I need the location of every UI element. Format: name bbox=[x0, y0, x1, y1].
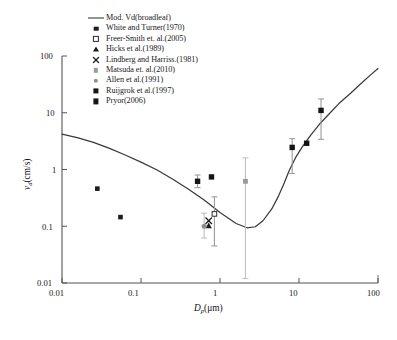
error-bar bbox=[242, 158, 248, 279]
legend-label-1: White and Turner(1970) bbox=[106, 23, 185, 33]
legend-label-7: Ruijgrok et al.(1997) bbox=[106, 86, 174, 96]
data-point bbox=[304, 141, 309, 146]
error-bar bbox=[318, 99, 324, 139]
y-tick-1: 1 bbox=[52, 165, 56, 175]
y-axis-title-sub: d bbox=[26, 183, 33, 186]
data-point bbox=[243, 179, 248, 184]
legend-marker-square-gray-icon bbox=[86, 65, 106, 75]
x-tick-2: 1 bbox=[213, 288, 217, 298]
y-axis-title-unit: (cm/s) bbox=[22, 159, 32, 183]
data-point bbox=[195, 179, 200, 184]
legend-label-5: Matsuda et. al.(2010) bbox=[106, 65, 175, 75]
legend-marker-x-cross-icon bbox=[86, 55, 106, 65]
x-axis-title: Dp(μm) bbox=[194, 303, 223, 314]
legend-item-8: Pryor(2006) bbox=[86, 96, 296, 106]
chart-legend: Mod. Vd(broadleaf)White and Turner(1970)… bbox=[86, 13, 296, 107]
data-point bbox=[289, 145, 294, 150]
legend-item-5: Matsuda et. al.(2010) bbox=[86, 65, 296, 75]
data-point bbox=[118, 215, 123, 220]
legend-item-4: Lindberg and Harriss.(1981) bbox=[86, 55, 296, 65]
y-axis-title-main: v bbox=[22, 186, 32, 190]
data-point bbox=[212, 212, 217, 217]
y-tick-0.01: 0.01 bbox=[37, 278, 52, 288]
y-tick-0.1: 0.1 bbox=[42, 222, 53, 232]
x-tick-1: 0.1 bbox=[128, 288, 139, 298]
legend-item-1: White and Turner(1970) bbox=[86, 23, 296, 33]
y-axis-title: vd(cm/s) bbox=[22, 159, 33, 190]
y-tick-100: 100 bbox=[40, 51, 53, 61]
legend-label-3: Hicks et al.(1989) bbox=[106, 44, 164, 54]
x-tick-4: 100 bbox=[367, 288, 380, 298]
legend-marker-square-filled-large-icon bbox=[86, 86, 106, 96]
legend-label-6: Allen et al.(1991) bbox=[106, 75, 163, 85]
legend-marker-square-filled-large-icon bbox=[86, 96, 106, 106]
data-point bbox=[202, 224, 207, 229]
x-axis-title-unit: (μm) bbox=[204, 303, 223, 313]
y-tick-10: 10 bbox=[46, 108, 55, 118]
legend-item-2: Freer-Smith et. al.(2005) bbox=[86, 34, 296, 44]
x-tick-3: 10 bbox=[289, 288, 298, 298]
legend-label-4: Lindberg and Harriss.(1981) bbox=[106, 55, 198, 65]
legend-item-3: Hicks et al.(1989) bbox=[86, 44, 296, 54]
data-point bbox=[318, 108, 323, 113]
error-bar bbox=[211, 197, 217, 246]
x-axis-title-main: D bbox=[194, 303, 201, 313]
legend-item-7: Ruijgrok et al.(1997) bbox=[86, 86, 296, 96]
legend-label-8: Pryor(2006) bbox=[106, 96, 145, 106]
legend-marker-square-open-icon bbox=[86, 34, 106, 44]
data-point bbox=[95, 186, 100, 191]
chart-figure: Mod. Vd(broadleaf)White and Turner(1970)… bbox=[0, 0, 397, 340]
x-tick-0: 0.01 bbox=[49, 288, 64, 298]
legend-item-6: Allen et al.(1991) bbox=[86, 75, 296, 85]
legend-marker-circle-gray-icon bbox=[86, 75, 106, 85]
legend-marker-triangle-filled-icon bbox=[86, 44, 106, 54]
data-point bbox=[209, 174, 214, 179]
legend-marker-square-filled-icon bbox=[86, 23, 106, 33]
legend-item-0: Mod. Vd(broadleaf) bbox=[86, 13, 296, 23]
legend-label-2: Freer-Smith et. al.(2005) bbox=[106, 34, 186, 44]
legend-marker-line-icon bbox=[86, 13, 106, 23]
legend-label-0: Mod. Vd(broadleaf) bbox=[106, 13, 171, 23]
